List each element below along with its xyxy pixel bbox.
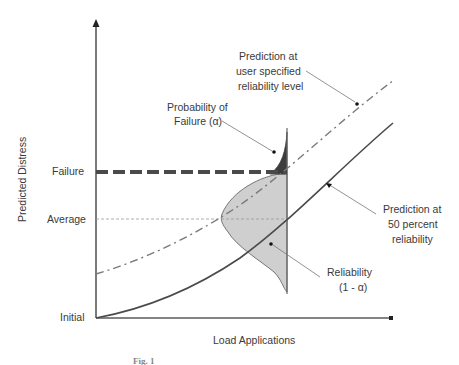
y-axis-arrow-icon [93,19,100,27]
user-specified-pointer [306,71,355,102]
probability-of-failure-label-line1: Probability of [167,101,228,113]
probability-of-failure-label-line2: Failure (α) [174,115,222,127]
y-level-average: Average [47,213,86,225]
fifty-percent-label-line2: 50 percent [388,218,438,230]
probability-of-failure-pointer [222,121,272,151]
reliability-label-line1: Reliability [327,266,373,278]
y-level-failure: Failure [52,165,84,177]
y-level-initial: Initial [60,311,85,323]
reliability-diagram: Failure Average Initial Predicted Distre… [0,0,459,365]
user-specified-label-line3: reliability level [238,80,303,92]
reliability-pointer-dot [269,242,273,246]
y-axis-title: Predicted Distress [16,137,28,222]
fifty-percent-pointer [328,184,376,214]
x-axis-arrow-icon [389,316,393,320]
reliability-region [221,174,287,292]
x-axis-title: Load Applications [213,334,295,346]
fifty-percent-label-line1: Prediction at [383,203,441,215]
user-specified-label-line2: user specified [236,65,301,77]
reliability-label-line2: (1 - α) [339,281,367,293]
user-specified-pointer-dot [355,102,359,106]
fifty-percent-label-line3: reliability [392,233,434,245]
user-specified-label-line1: Prediction at [239,50,297,62]
probability-of-failure-pointer-dot [272,150,276,154]
figure-caption: Fig. 1 [133,356,155,365]
